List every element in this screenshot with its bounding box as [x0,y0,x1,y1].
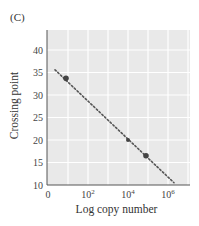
y-tick-label: 20 [33,135,43,146]
y-tick-label: 35 [33,67,43,78]
y-tick-label: 25 [33,112,43,123]
x-tick-label: 106 [161,188,175,200]
x-ticks: 0102104106 [46,188,176,200]
x-tick-exponent: 2 [91,188,95,196]
x-tick-exponent: 4 [131,188,135,196]
x-tick-label: 104 [121,188,135,200]
y-tick-label: 40 [33,45,43,56]
x-tick-label: 102 [81,188,95,200]
y-tick-label: 15 [33,157,43,168]
x-axis-label: Log copy number [76,203,158,216]
y-tick-label: 30 [33,90,43,101]
data-point [126,138,130,142]
y-axis-label: Crossing point [8,71,21,139]
chart: 10152025303540 0102104106 Log copy numbe… [0,0,199,226]
data-point [143,153,149,159]
y-tick-label: 10 [33,180,43,191]
x-tick-exponent: 6 [171,188,175,196]
x-tick-label: 0 [46,189,51,200]
data-point [63,76,69,82]
y-ticks: 10152025303540 [33,45,43,191]
